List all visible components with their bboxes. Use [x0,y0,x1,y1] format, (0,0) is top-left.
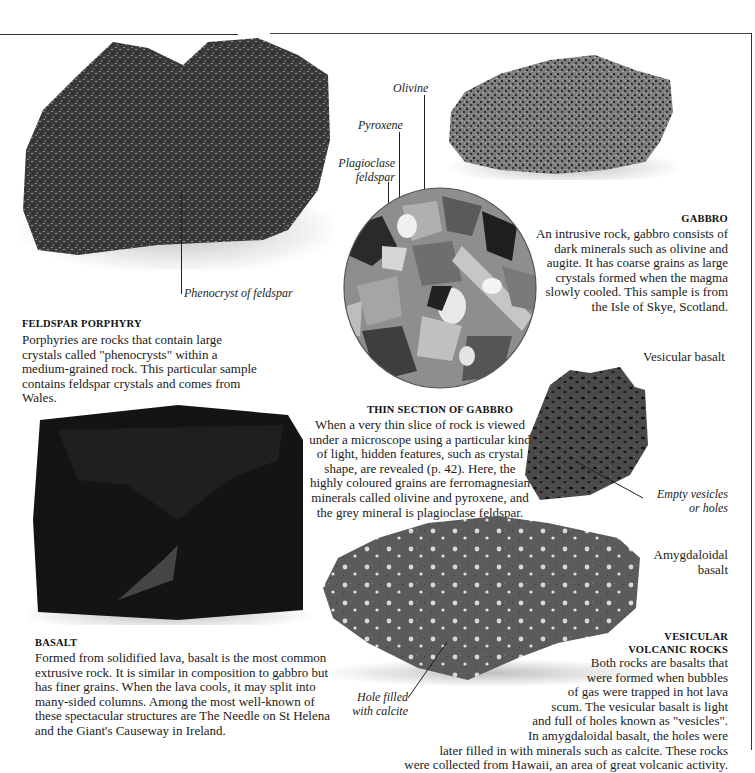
basalt-heading: BASALT [35,637,77,648]
thin-section-line: shape, are revealed (p. 42). Here, the [300,462,540,477]
olivine-callout: Olivine [393,81,428,95]
vesicular-volcanic-heading-line1: VESICULAR [628,631,728,642]
plagioclase-callout-line1: Plagioclase [335,156,395,170]
vesicular-volcanic-line: later filled in with minerals such as ca… [328,744,728,759]
basalt-image [28,400,310,625]
thin-section-line: minerals called olivine and pyroxene, an… [300,491,540,506]
vesicular-volcanic-line: were collected from Hawaii, an area of g… [328,758,728,773]
right-rule [751,33,752,750]
vesicular-basalt-label: Vesicular basalt [643,350,725,365]
phenocryst-leader-line [181,190,182,294]
basalt-line: has finer grains. When the lava cools, i… [35,680,355,695]
gabbro-heading: GABBRO [681,213,728,224]
plagioclase-callout: Plagioclase feldspar [335,156,395,184]
empty-vesicles-callout: Empty vesicles or holes [657,487,728,515]
empty-vesicles-line1: Empty vesicles [657,487,728,501]
thin-section-line: When a very thin slice of rock is viewed [300,418,540,433]
amygdaloidal-label-line1: Amygdaloidal [654,548,728,563]
basalt-body: Formed from solidified lava, basalt is t… [35,651,355,739]
thin-section-gabbro-image [342,186,538,390]
empty-vesicles-line2: or holes [657,501,728,515]
vesicular-volcanic-body: Both rocks are basalts that were formed … [328,656,728,773]
thin-section-line: under a microscope using a particular ki… [300,433,540,448]
basalt-line: these spectacular structures are The Nee… [35,709,355,724]
amygdaloidal-label-line2: basalt [654,563,728,578]
vesicular-volcanic-line: In amygdaloidal basalt, the holes were [328,729,728,744]
vesicular-volcanic-line: scum. The vesicular basalt is light [328,700,728,715]
vesicular-volcanic-line: Both rocks are basalts that [328,656,728,671]
pyroxene-callout: Pyroxene [358,118,403,132]
plagioclase-callout-line2: feldspar [335,170,395,184]
vesicular-volcanic-line: of gas were trapped in hot lava [328,685,728,700]
basalt-line: Formed from solidified lava, basalt is t… [35,651,355,666]
thin-section-line: of light, hidden features, such as cryst… [300,447,540,462]
vesicular-volcanic-line: and full of holes known as "vesicles". [328,714,728,729]
basalt-line: many-sided columns. Among the most well-… [35,695,355,710]
amygdaloidal-basalt-label: Amygdaloidal basalt [654,548,728,577]
thin-section-line: highly coloured grains are ferromagnesia… [300,476,540,491]
feldspar-porphyry-heading: FELDSPAR PORPHYRY [22,318,142,329]
thin-section-body: When a very thin slice of rock is viewed… [300,418,540,520]
vesicular-volcanic-heading: VESICULAR VOLCANIC ROCKS [628,631,728,655]
feldspar-porphyry-body: Porphyries are rocks that contain large … [22,333,262,406]
top-rule-right [270,33,752,34]
feldspar-porphyry-image [18,30,333,270]
gabbro-image [445,52,677,180]
vesicular-volcanic-heading-line2: VOLCANIC ROCKS [628,644,728,655]
phenocryst-callout: Phenocryst of feldspar [184,286,293,300]
basalt-line: and the Giant's Causeway in Ireland. [35,724,355,739]
basalt-line: extrusive rock. It is similar in composi… [35,666,355,681]
empty-vesicles-leader-line [575,460,645,500]
vesicular-volcanic-line: were formed when bubbles [328,671,728,686]
